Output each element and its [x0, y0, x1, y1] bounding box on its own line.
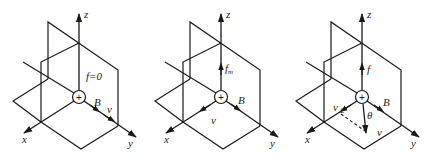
z-axis-label: z: [225, 8, 231, 20]
x-axis-label: x: [163, 133, 169, 145]
angle-theta-label: θ: [367, 109, 373, 121]
axes-and-planes: [13, 14, 136, 149]
y-axis-label: y: [127, 137, 133, 149]
y-axis-label: y: [269, 137, 275, 149]
force-label: f=0: [86, 70, 102, 82]
velocity-arrow: [202, 105, 210, 110]
x-axis-label: x: [21, 133, 27, 145]
axes-and-planes: [155, 14, 278, 149]
b-field-label: B: [94, 96, 101, 108]
positive-charge-icon: +: [76, 92, 82, 103]
velocity-vector: [363, 104, 366, 133]
velocity-label: v: [211, 114, 216, 126]
z-axis-label: z: [83, 8, 89, 20]
velocity-label: v: [107, 103, 112, 115]
y-axis-label: y: [410, 137, 416, 149]
panel-3: + z x y f B v θ v⊥: [296, 8, 419, 149]
force-label: f: [367, 63, 372, 75]
velocity-label: v: [377, 126, 382, 138]
x-axis-label: x: [304, 133, 310, 145]
panel-1: + z x y f=0 B v: [13, 8, 136, 149]
b-field-label: B: [238, 94, 245, 106]
positive-charge-icon: +: [218, 92, 224, 103]
b-field-arrow: [374, 105, 381, 110]
projection-dashed-line: [341, 114, 365, 131]
perpendicular-velocity-label: v⊥: [333, 101, 344, 115]
force-label: fm: [225, 62, 233, 76]
panel-2: + z x y fm B v: [155, 8, 278, 149]
b-field-label: B: [383, 96, 390, 108]
velocity-arrow: [104, 115, 112, 120]
z-axis-label: z: [366, 8, 372, 20]
b-field-arrow: [231, 104, 238, 109]
axes-and-planes: [296, 14, 419, 149]
figure: + z x y f=0 B v + z x y fm B v +: [0, 0, 425, 160]
positive-charge-icon: +: [359, 92, 365, 103]
lorentz-force-diagrams: + z x y f=0 B v + z x y fm B v +: [0, 0, 425, 160]
